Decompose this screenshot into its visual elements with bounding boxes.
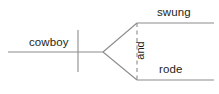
upper-branch-label: swung (157, 6, 191, 19)
subject-label: cowboy (29, 36, 69, 49)
lower-branch-diagonal (103, 52, 137, 80)
upper-branch-diagonal (103, 23, 137, 52)
lower-branch-label: rode (159, 63, 182, 76)
sentence-diagram: cowboy swung rode and (0, 0, 219, 94)
conjunction-label: and (134, 41, 147, 60)
